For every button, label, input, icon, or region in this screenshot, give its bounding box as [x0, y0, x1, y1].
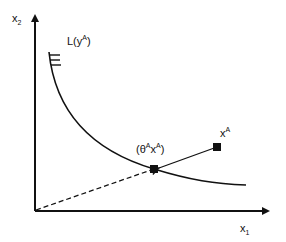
- curve-label: L(yA): [67, 34, 91, 47]
- original-point-marker: [213, 143, 221, 151]
- y-axis-label: x2: [12, 12, 22, 26]
- x-axis-label: x1: [240, 222, 250, 236]
- projected-point-marker: [150, 165, 158, 173]
- original-point-label: xA: [220, 126, 231, 139]
- diagram-canvas: x2 x1 L(yA) (θAxA) xA: [0, 0, 286, 242]
- projected-point-label: (θAxA): [136, 142, 164, 155]
- dashed-ray: [36, 169, 154, 210]
- isoquant-curve: [49, 52, 246, 185]
- hatch-marks: [50, 55, 61, 65]
- projection-arrow: [159, 147, 217, 168]
